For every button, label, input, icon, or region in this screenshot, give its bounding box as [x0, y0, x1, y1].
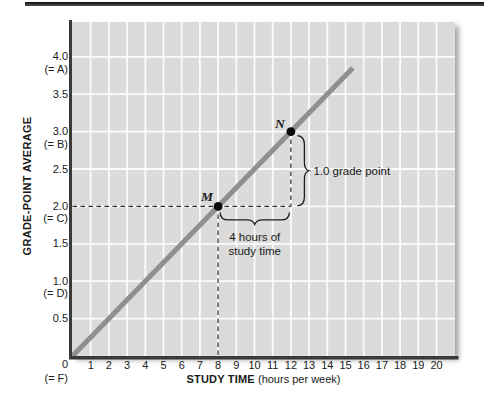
y-tick-value: 1.5 — [0, 237, 68, 250]
annotation-run-line2: study time — [205, 245, 305, 259]
y-tick-label: 3.5 — [0, 88, 68, 101]
x-axis-title-units: (hours per week) — [258, 373, 341, 385]
annotation-run-line1: 4 hours of — [205, 231, 305, 245]
y-tick-label: 4.0(= A) — [0, 50, 68, 75]
gpa-line — [73, 68, 353, 356]
y-tick-label: 2.5 — [0, 163, 68, 176]
chart-svg — [0, 0, 484, 405]
brace-vertical — [297, 136, 309, 206]
y-tick-value: 2.0 — [0, 200, 68, 213]
y-tick-grade: (= A) — [0, 63, 68, 76]
y-tick-value: 0.5 — [0, 312, 68, 325]
y-tick-label: 2.0(= C) — [0, 200, 68, 225]
y-tick-value: 3.5 — [0, 88, 68, 101]
y-tick-grade: (= D) — [0, 287, 68, 300]
annotation-run: 4 hours of study time — [205, 231, 305, 258]
y-tick-value: 1.0 — [0, 275, 68, 288]
y-tick-label: 1.5 — [0, 237, 68, 250]
origin-tick-value: 0 — [0, 358, 68, 372]
point-label-n: N — [271, 117, 289, 131]
y-tick-grade: (= C) — [0, 212, 68, 225]
x-axis-title-main: STUDY TIME — [186, 373, 254, 385]
point-label-m: M — [198, 190, 216, 204]
y-tick-label: 0.5 — [0, 312, 68, 325]
origin-tick-label: 0 (= F) — [0, 358, 68, 385]
y-tick-value: 2.5 — [0, 163, 68, 176]
y-tick-value: 4.0 — [0, 50, 68, 63]
figure: GRADE-POINT AVERAGE STUDY TIME (hours pe… — [0, 0, 484, 405]
y-tick-label: 3.0(= B) — [0, 125, 68, 150]
x-tick-label: 20 — [424, 359, 450, 372]
x-axis-title: STUDY TIME (hours per week) — [72, 373, 455, 385]
y-tick-label: 1.0(= D) — [0, 275, 68, 300]
annotation-rise: 1.0 grade point — [313, 164, 390, 178]
y-tick-value: 3.0 — [0, 125, 68, 138]
y-tick-grade: (= B) — [0, 138, 68, 151]
origin-tick-grade: (= F) — [0, 372, 68, 386]
